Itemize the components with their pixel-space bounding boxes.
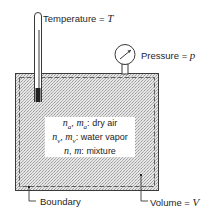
temperature-label-text: Temperature =: [43, 13, 105, 24]
legend-symbol: m: [76, 117, 83, 128]
legend-symbol: n: [64, 145, 69, 156]
legend-subscript: v: [57, 137, 60, 145]
pressure-symbol: p: [190, 49, 196, 61]
legend-symbol: m: [65, 131, 72, 142]
legend-description: mixture: [86, 146, 116, 156]
legend-row-water-vapor: nv, mv: water vapor: [47, 132, 133, 146]
boundary-label: Boundary: [40, 197, 81, 207]
volume-label: Volume = V: [150, 197, 199, 208]
legend-subscript: v: [73, 137, 76, 145]
boundary-label-text: Boundary: [40, 196, 81, 207]
quantities-legend: na, ma: dry air nv, mv: water vapor n, m…: [45, 117, 135, 157]
legend-description: dry air: [92, 118, 117, 128]
pressure-label-text: Pressure =: [141, 50, 187, 61]
legend-row-mixture: n, m: mixture: [47, 146, 133, 156]
legend-symbol: m: [74, 145, 81, 156]
legend-subscript: a: [84, 123, 88, 131]
pressure-gauge-icon: [115, 45, 135, 75]
diagram-canvas: [0, 0, 213, 216]
legend-description: water vapor: [81, 132, 128, 142]
pressure-label: Pressure = p: [141, 50, 195, 61]
volume-symbol: V: [193, 196, 200, 208]
thermometer-icon: [35, 13, 42, 103]
legend-row-dry-air: na, ma: dry air: [47, 118, 133, 132]
volume-label-text: Volume =: [150, 197, 190, 208]
temperature-label: Temperature = T: [43, 13, 113, 24]
temperature-symbol: T: [107, 12, 113, 24]
legend-subscript: a: [68, 123, 72, 131]
